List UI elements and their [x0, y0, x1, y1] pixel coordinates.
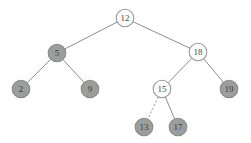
node-circle-12: [116, 9, 134, 27]
tree-edge-18-15: [168, 58, 192, 82]
node-circle-18: [189, 43, 207, 61]
tree-edge-5-2: [27, 59, 51, 83]
tree-edge-12-18: [133, 22, 190, 49]
tree-edge-15-17: [165, 97, 174, 119]
edges-layer: [27, 22, 223, 119]
node-circle-17: [169, 118, 187, 136]
tree-node-17[interactable]: 17: [169, 118, 187, 136]
binary-search-tree-figure: 125182915191317: [0, 0, 251, 143]
tree-node-2[interactable]: 2: [12, 80, 30, 98]
node-circle-13: [135, 118, 153, 136]
tree-edge-18-19: [204, 59, 224, 83]
tree-canvas: 125182915191317: [0, 0, 251, 143]
nodes-layer: 125182915191317: [12, 9, 238, 136]
tree-edge-12-5: [65, 22, 117, 49]
tree-edge-15-13: [148, 97, 158, 119]
tree-edge-5-9: [63, 59, 84, 82]
tree-node-9[interactable]: 9: [81, 80, 99, 98]
node-circle-9: [81, 80, 99, 98]
tree-node-18[interactable]: 18: [189, 43, 207, 61]
tree-node-19[interactable]: 19: [220, 80, 238, 98]
tree-node-12[interactable]: 12: [116, 9, 134, 27]
node-circle-2: [12, 80, 30, 98]
node-circle-19: [220, 80, 238, 98]
tree-node-13[interactable]: 13: [135, 118, 153, 136]
node-circle-5: [48, 44, 66, 62]
tree-node-15[interactable]: 15: [153, 80, 171, 98]
tree-node-5[interactable]: 5: [48, 44, 66, 62]
node-circle-15: [153, 80, 171, 98]
